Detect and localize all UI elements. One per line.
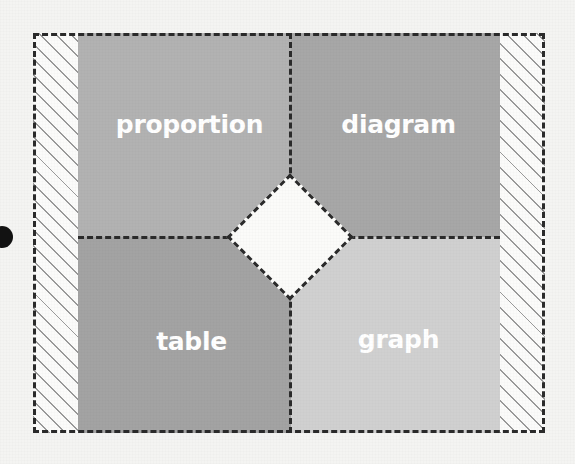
ink-dot-mark <box>0 226 13 248</box>
figure-canvas: proportion diagram table graph <box>0 0 575 464</box>
